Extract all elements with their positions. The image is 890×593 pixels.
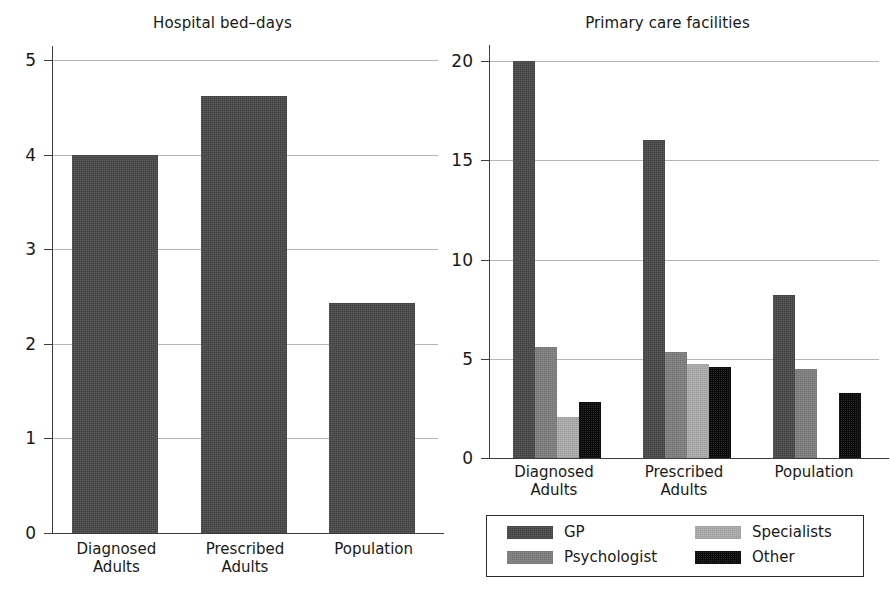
y-axis-tick — [481, 260, 489, 261]
x-axis-category-label: Diagnosed Adults — [52, 541, 181, 576]
y-axis-tick — [481, 160, 489, 161]
gridline — [489, 160, 879, 161]
x-axis-line — [489, 458, 889, 459]
figure-canvas: Hospital bed–days 012345Diagnosed Adults… — [0, 0, 890, 593]
bar — [687, 364, 709, 458]
y-axis-tick — [44, 344, 52, 345]
bar — [795, 369, 817, 458]
x-axis-line — [52, 533, 444, 534]
bar — [201, 96, 287, 533]
y-axis-tick — [44, 249, 52, 250]
gridline — [489, 61, 879, 62]
y-axis-tick-label: 2 — [2, 335, 36, 352]
plot-area-right: 05101520Diagnosed AdultsPrescribed Adult… — [489, 61, 879, 458]
y-axis-tick-label: 0 — [2, 525, 36, 542]
legend: GP Psychologist Specialists Other — [486, 515, 864, 577]
y-axis-line — [489, 45, 490, 458]
legend-label-gp: GP — [564, 525, 585, 540]
gridline — [489, 260, 879, 261]
x-axis-category-label: Population — [309, 541, 438, 559]
x-axis-category-label: Prescribed Adults — [619, 464, 749, 499]
y-axis-tick — [44, 60, 52, 61]
legend-entry-gp: GP — [507, 525, 585, 540]
bar — [839, 393, 861, 459]
y-axis-tick-label: 20 — [439, 53, 473, 70]
bar — [513, 61, 535, 458]
legend-label-specialists: Specialists — [752, 525, 832, 540]
y-axis-tick — [44, 438, 52, 439]
y-axis-tick-label: 1 — [2, 430, 36, 447]
bar — [579, 402, 601, 458]
legend-entry-psychologist: Psychologist — [507, 550, 657, 565]
y-axis-tick-label: 5 — [439, 350, 473, 367]
bar — [557, 417, 579, 458]
y-axis-tick — [44, 533, 52, 534]
x-axis-category-label: Diagnosed Adults — [489, 464, 619, 499]
chart-title-right: Primary care facilities — [445, 14, 890, 32]
specialists-swatch — [695, 526, 741, 539]
y-axis-tick-label: 10 — [439, 251, 473, 268]
y-axis-tick — [481, 458, 489, 459]
y-axis-line — [52, 46, 53, 533]
chart-title-left: Hospital bed–days — [0, 14, 445, 32]
plot-area-left: 012345Diagnosed AdultsPrescribed AdultsP… — [52, 60, 438, 533]
chart-panel-hospital-bed-days: Hospital bed–days 012345Diagnosed Adults… — [0, 0, 445, 593]
y-axis-tick-label: 5 — [2, 52, 36, 69]
y-axis-tick-label: 4 — [2, 146, 36, 163]
y-axis-tick — [481, 61, 489, 62]
legend-label-psychologist: Psychologist — [564, 550, 657, 565]
y-axis-tick-label: 0 — [439, 450, 473, 467]
y-axis-tick — [44, 155, 52, 156]
bar — [535, 347, 557, 458]
legend-entry-other: Other — [695, 550, 795, 565]
legend-label-other: Other — [752, 550, 795, 565]
y-axis-tick — [481, 359, 489, 360]
bar — [643, 140, 665, 458]
legend-entry-specialists: Specialists — [695, 525, 832, 540]
bar — [709, 367, 731, 458]
gp-swatch — [507, 526, 553, 539]
y-axis-tick-label: 15 — [439, 152, 473, 169]
other-swatch — [695, 551, 741, 564]
gridline — [52, 60, 438, 61]
x-axis-category-label: Population — [749, 464, 879, 482]
bar — [329, 303, 415, 533]
bar — [72, 155, 158, 533]
chart-panel-primary-care-facilities: Primary care facilities 05101520Diagnose… — [445, 0, 890, 593]
psychologist-swatch — [507, 551, 553, 564]
x-axis-category-label: Prescribed Adults — [181, 541, 310, 576]
y-axis-tick-label: 3 — [2, 241, 36, 258]
bar — [665, 352, 687, 458]
bar — [773, 295, 795, 458]
